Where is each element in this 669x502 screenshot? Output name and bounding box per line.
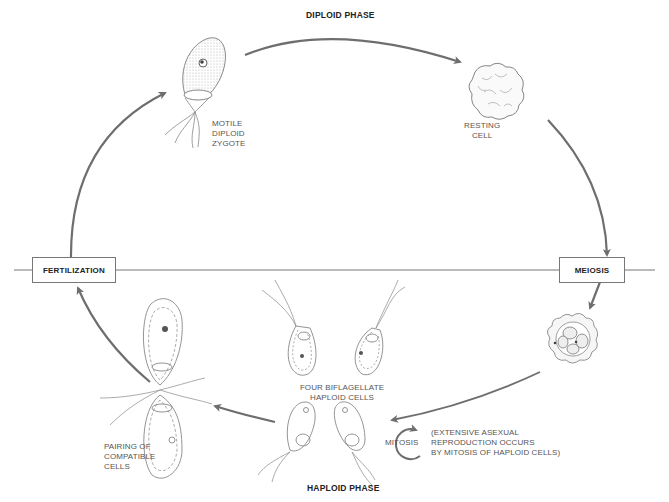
- mitosis-note: (EXTENSIVE ASEXUAL REPRODUCTION OCCURS B…: [431, 428, 560, 458]
- arrow-tetrad-to-haploid: [392, 372, 540, 420]
- arrow-fertilization-to-zygote: [71, 93, 165, 258]
- meiosis-box: MEIOSIS: [559, 257, 625, 283]
- haploid-cells-label: FOUR BIFLAGELLATE HAPLOID CELLS: [292, 383, 392, 403]
- haploid-cell-lower-left: [258, 402, 315, 482]
- haploid-cell-lower-right: [334, 402, 375, 485]
- arrow-zygote-to-resting: [245, 39, 460, 62]
- arrow-haploid-to-pairing: [215, 406, 275, 422]
- diploid-phase-label: DIPLOID PHASE: [306, 10, 375, 20]
- resting-cell-label: RESTING CELL: [464, 121, 500, 141]
- mitosis-label: MITOSIS: [385, 438, 418, 448]
- fertilization-box: FERTILIZATION: [32, 257, 116, 283]
- life-cycle-diagram: [0, 0, 669, 502]
- haploid-cell-upper-left: [262, 280, 316, 375]
- tetrad-cell: [547, 313, 597, 363]
- resting-cell: [469, 63, 524, 119]
- zygote-label: MOTILE DIPLOID ZYGOTE: [212, 119, 246, 149]
- arrow-meiosis-to-tetrad: [590, 282, 600, 308]
- arrow-pairing-to-fertilization: [78, 288, 150, 382]
- pairing-label: PAIRING OF COMPATIBLE CELLS: [104, 442, 155, 472]
- haploid-phase-label: HAPLOID PHASE: [307, 483, 380, 493]
- haploid-cell-upper-right: [355, 280, 405, 375]
- arrow-resting-to-meiosis: [548, 120, 607, 255]
